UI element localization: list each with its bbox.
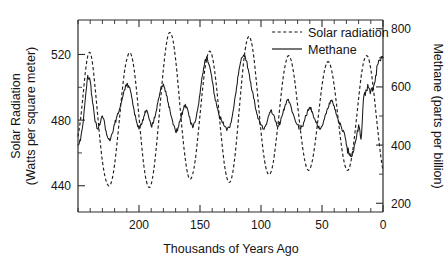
chart-legend: Solar radiationMethane [272, 26, 389, 57]
y-axis-right-ticks [376, 29, 383, 204]
x-axis-title: Thousands of Years Ago [163, 242, 299, 256]
x-axis-tick-labels: 200150100500 [129, 218, 387, 232]
x-axis-ticks [78, 205, 383, 212]
y-axis-right-title: Methane (parts per billion) [431, 43, 444, 188]
x-tick-label: 0 [380, 218, 387, 232]
y-axis-left-title-line1: Solar Radiation [9, 73, 23, 159]
y-axis-left-title-line2: (Watts per square meter) [24, 47, 38, 185]
x-tick-label: 150 [190, 218, 210, 232]
chart-container: 200150100500 440480520 200400600800 Thou… [0, 0, 444, 264]
paleoclimate-line-chart: 200150100500 440480520 200400600800 Thou… [0, 0, 444, 264]
y-tick-label: 520 [51, 48, 71, 62]
x-tick-label: 200 [129, 218, 149, 232]
legend-label: Methane [308, 43, 357, 57]
y-axis-left-label: Solar Radiation (Watts per square meter) [9, 47, 38, 185]
legend-label: Solar radiation [308, 26, 389, 40]
y-axis-right-label: Methane (parts per billion) [431, 43, 444, 188]
x-tick-label: 100 [251, 218, 271, 232]
y-axis-left-tick-labels: 440480520 [51, 48, 71, 193]
y2-tick-label: 800 [391, 22, 411, 36]
y2-tick-label: 600 [391, 80, 411, 94]
y-axis-left-ticks [78, 54, 85, 185]
x-tick-label: 50 [315, 218, 329, 232]
y-axis-right-tick-labels: 200400600800 [391, 22, 411, 211]
y-tick-label: 440 [51, 179, 71, 193]
y2-tick-label: 200 [391, 197, 411, 211]
y-tick-label: 480 [51, 114, 71, 128]
x-axis-label: Thousands of Years Ago [163, 242, 299, 256]
y2-tick-label: 400 [391, 139, 411, 153]
